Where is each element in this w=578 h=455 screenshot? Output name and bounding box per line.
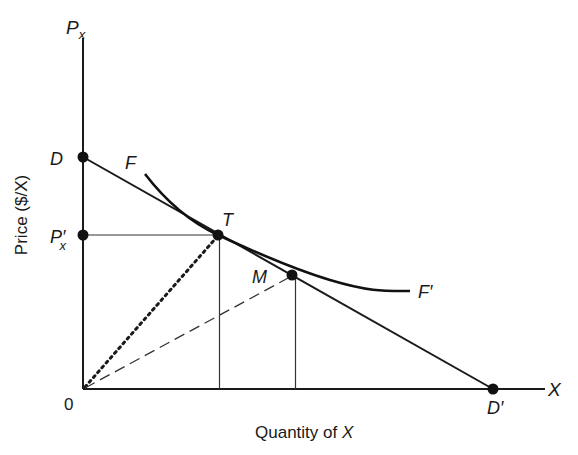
x-axis-title: Quantity of X [255,423,354,442]
origin-label: 0 [64,395,73,414]
economics-diagram: Px X 0 D F P′x T M F′ D′ Price ($/X) Qua… [0,0,578,455]
label-F-prime: F′ [418,282,433,302]
label-D: D [50,149,63,169]
point-P-prime-x [78,230,89,241]
y-axis-title: Price ($/X) [12,175,31,255]
label-F: F [125,153,137,173]
x-axis-symbol: X [547,379,562,400]
label-D-prime: D′ [487,398,504,418]
point-M [287,270,298,281]
point-D-prime [488,384,499,395]
point-T [213,230,224,241]
point-D [78,152,89,163]
label-M: M [252,267,267,287]
